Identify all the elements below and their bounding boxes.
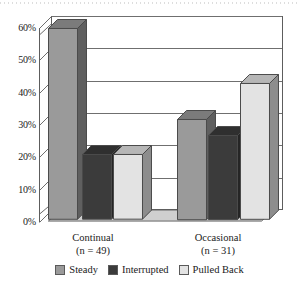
legend-item-interrupted[interactable]: Interrupted	[108, 264, 169, 275]
y-axis-tick-label: 20%	[2, 152, 36, 162]
bar-pulled-back	[240, 83, 269, 219]
bar-shape	[113, 145, 153, 221]
bar-steady	[177, 119, 206, 219]
y-axis-tick-label: 30%	[2, 120, 36, 130]
bar-interrupted	[82, 154, 111, 219]
y-axis-tick-label: 0%	[2, 217, 36, 227]
x-axis-group-count: (n = 31)	[158, 244, 278, 257]
plot-area	[39, 16, 283, 222]
legend-item-pulled-back[interactable]: Pulled Back	[179, 264, 244, 275]
legend-label: Pulled Back	[193, 264, 244, 275]
bar-shape	[240, 74, 280, 221]
legend-item-steady[interactable]: Steady	[55, 264, 98, 275]
scan-artifact	[0, 2, 299, 4]
bar-interrupted	[208, 135, 237, 219]
x-axis-group-count: (n = 49)	[33, 244, 153, 257]
x-axis-group-name: Occasional	[195, 232, 242, 243]
x-axis-group-label: Occasional(n = 31)	[158, 231, 278, 257]
y-axis-line	[39, 28, 40, 222]
grid-line	[52, 16, 282, 17]
x-axis-group-name: Continual	[72, 232, 113, 243]
chart-legend: SteadyInterruptedPulled Back	[0, 264, 299, 275]
x-axis-group-label: Continual(n = 49)	[33, 231, 153, 257]
legend-swatch-icon	[108, 265, 118, 275]
bar-pulled-back	[113, 154, 142, 219]
bar-steady	[48, 28, 77, 219]
legend-swatch-icon	[55, 265, 65, 275]
y-axis-tick-label: 10%	[2, 185, 36, 195]
y-axis-tick-label: 50%	[2, 55, 36, 65]
legend-swatch-icon	[179, 265, 189, 275]
legend-label: Interrupted	[122, 264, 169, 275]
bar-chart: 60%50%40%30%20%10%0% Continual(n = 49)Oc…	[0, 0, 299, 288]
y-axis-tick-label: 40%	[2, 88, 36, 98]
y-axis-tick-label: 60%	[2, 23, 36, 33]
legend-label: Steady	[69, 264, 98, 275]
